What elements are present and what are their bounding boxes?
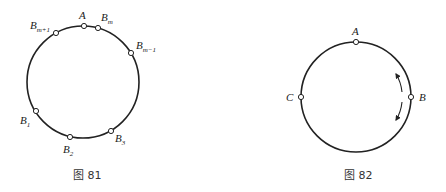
figure-81-caption: 图 81 <box>73 169 102 182</box>
arrow-up-icon <box>396 74 402 92</box>
figure-82: ABC 图 82 <box>286 25 426 182</box>
point-label-subscript: m <box>108 18 113 26</box>
point-marker <box>95 25 100 30</box>
point-label-subscript: m+1 <box>37 26 50 34</box>
point-label-subscript: 2 <box>70 150 74 158</box>
point-marker <box>408 94 413 99</box>
point-marker <box>298 94 303 99</box>
point-marker <box>128 50 133 55</box>
point-label: B3 <box>115 132 126 147</box>
point-marker <box>67 134 72 139</box>
point-label: A <box>351 25 359 37</box>
point-label: Bm <box>101 11 113 26</box>
point-label-subscript: 3 <box>121 139 126 147</box>
arrow-down-icon <box>396 102 402 120</box>
point-marker <box>53 30 58 35</box>
circle-81 <box>27 26 139 138</box>
point-label-subscript: m−1 <box>143 46 156 54</box>
point-label: B1 <box>20 114 30 129</box>
figure-82-caption: 图 82 <box>344 169 373 182</box>
points-82: ABC <box>286 25 426 103</box>
figure-81: ABmBm−1Bm+1B1B2B3 图 81 <box>20 9 156 182</box>
point-label: A <box>78 9 86 21</box>
point-label-subscript: 1 <box>27 121 31 129</box>
point-label: C <box>286 91 294 103</box>
diagram-canvas: ABmBm−1Bm+1B1B2B3 图 81 ABC 图 82 <box>0 0 446 192</box>
point-marker <box>353 39 358 44</box>
point-marker <box>33 108 38 113</box>
point-label: Bm−1 <box>136 39 156 54</box>
point-label: B <box>419 91 426 103</box>
circle-82 <box>301 42 411 152</box>
point-marker <box>81 23 86 28</box>
point-label: Bm+1 <box>30 19 50 34</box>
points-81: ABmBm−1Bm+1B1B2B3 <box>20 9 156 158</box>
point-marker <box>108 128 113 133</box>
point-label: B2 <box>63 143 74 158</box>
